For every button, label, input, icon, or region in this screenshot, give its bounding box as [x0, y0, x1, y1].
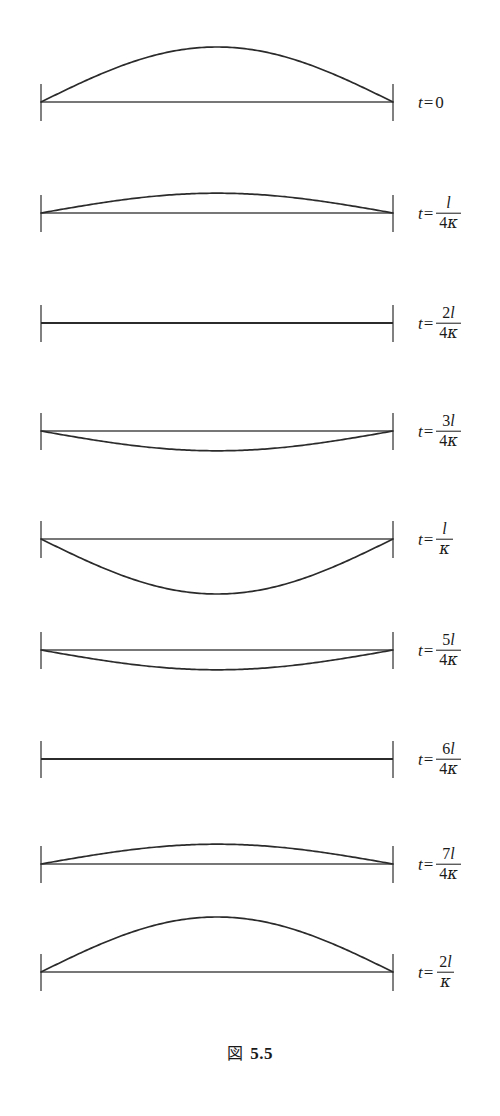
fraction-denominator: κ: [436, 539, 453, 558]
fraction-numerator: 3l: [439, 413, 457, 431]
time-value: 0: [435, 94, 444, 111]
string-snapshot-panel: t=l4κ: [0, 157, 500, 269]
time-label: t=lκ: [418, 521, 453, 558]
string-curve: [41, 539, 393, 594]
kappa-symbol: κ: [447, 650, 458, 669]
fraction-numerator: l: [443, 195, 453, 213]
time-label: t=2lκ: [418, 954, 455, 991]
time-variable-symbol: t: [418, 94, 423, 111]
fraction-numerator: 5l: [439, 632, 457, 650]
time-value-fraction: 3l4κ: [436, 413, 461, 450]
time-variable-symbol: t: [418, 205, 423, 222]
equals-sign: =: [424, 531, 434, 548]
caption-number: 5.5: [250, 1044, 273, 1063]
kappa-symbol: κ: [447, 864, 458, 883]
time-variable-symbol: t: [418, 642, 423, 659]
string-curve: [41, 917, 393, 972]
time-value-fraction: 7l4κ: [436, 846, 461, 883]
length-symbol: l: [450, 412, 454, 429]
string-snapshot-panel: t=2lκ: [0, 916, 500, 1028]
kappa-symbol: κ: [440, 972, 451, 991]
length-symbol: l: [446, 194, 450, 211]
string-snapshot-panel: t=0: [0, 46, 500, 158]
fraction-numerator: 6l: [439, 741, 457, 759]
string-snapshot-panel: t=2l4κ: [0, 267, 500, 379]
equals-sign: =: [424, 315, 434, 332]
equals-sign: =: [424, 964, 434, 981]
caption-kanji-glyph: 図: [227, 1044, 243, 1063]
kappa-symbol: κ: [447, 323, 458, 342]
equals-sign: =: [424, 642, 434, 659]
string-curve: [41, 650, 393, 670]
time-variable-symbol: t: [418, 315, 423, 332]
kappa-symbol: κ: [447, 431, 458, 450]
time-label: t=0: [418, 94, 444, 111]
kappa-symbol: κ: [439, 539, 450, 558]
figure-5-5: t=0t=l4κt=2l4κt=3l4κt=lκt=5l4κt=6l4κt=7l…: [0, 0, 500, 1116]
fraction-numerator: l: [439, 521, 449, 539]
time-value-fraction: 6l4κ: [436, 741, 461, 778]
string-snapshot-panel: t=6l4κ: [0, 703, 500, 815]
equals-sign: =: [424, 205, 434, 222]
time-label: t=2l4κ: [418, 305, 461, 342]
time-label: t=7l4κ: [418, 846, 461, 883]
fraction-denominator: 4κ: [436, 650, 461, 669]
time-value-fraction: 2lκ: [436, 954, 454, 991]
time-value-fraction: l4κ: [436, 195, 461, 232]
time-value-fraction: 5l4κ: [436, 632, 461, 669]
time-variable-symbol: t: [418, 856, 423, 873]
string-curve: [41, 431, 393, 451]
kappa-symbol: κ: [447, 213, 458, 232]
time-label: t=5l4κ: [418, 632, 461, 669]
time-variable-symbol: t: [418, 964, 423, 981]
fraction-numerator: 2l: [436, 954, 454, 972]
length-symbol: l: [447, 953, 451, 970]
fraction-denominator: 4κ: [436, 431, 461, 450]
time-label: t=3l4κ: [418, 413, 461, 450]
equals-sign: =: [424, 94, 434, 111]
fraction-denominator: κ: [437, 972, 454, 991]
time-value-fraction: 2l4κ: [436, 305, 461, 342]
length-symbol: l: [450, 304, 454, 321]
fraction-denominator: 4κ: [436, 759, 461, 778]
time-value-fraction: lκ: [436, 521, 453, 558]
length-symbol: l: [450, 740, 454, 757]
length-symbol: l: [442, 520, 446, 537]
string-snapshot-panel: t=3l4κ: [0, 375, 500, 487]
fraction-numerator: 2l: [439, 305, 457, 323]
length-symbol: l: [450, 845, 454, 862]
string-snapshot-panel: t=7l4κ: [0, 808, 500, 920]
time-label: t=l4κ: [418, 195, 461, 232]
time-label: t=6l4κ: [418, 741, 461, 778]
length-symbol: l: [450, 631, 454, 648]
figure-caption: 図5.5: [0, 1040, 500, 1064]
time-variable-symbol: t: [418, 751, 423, 768]
time-variable-symbol: t: [418, 531, 423, 548]
fraction-denominator: 4κ: [436, 864, 461, 883]
string-curve: [41, 193, 393, 213]
string-curve: [41, 844, 393, 864]
kappa-symbol: κ: [447, 759, 458, 778]
fraction-denominator: 4κ: [436, 213, 461, 232]
equals-sign: =: [424, 423, 434, 440]
fraction-numerator: 7l: [439, 846, 457, 864]
fraction-denominator: 4κ: [436, 323, 461, 342]
string-snapshot-panel: t=5l4κ: [0, 594, 500, 706]
equals-sign: =: [424, 856, 434, 873]
string-snapshot-panel: t=lκ: [0, 483, 500, 595]
equals-sign: =: [424, 751, 434, 768]
string-curve: [41, 47, 393, 102]
time-variable-symbol: t: [418, 423, 423, 440]
